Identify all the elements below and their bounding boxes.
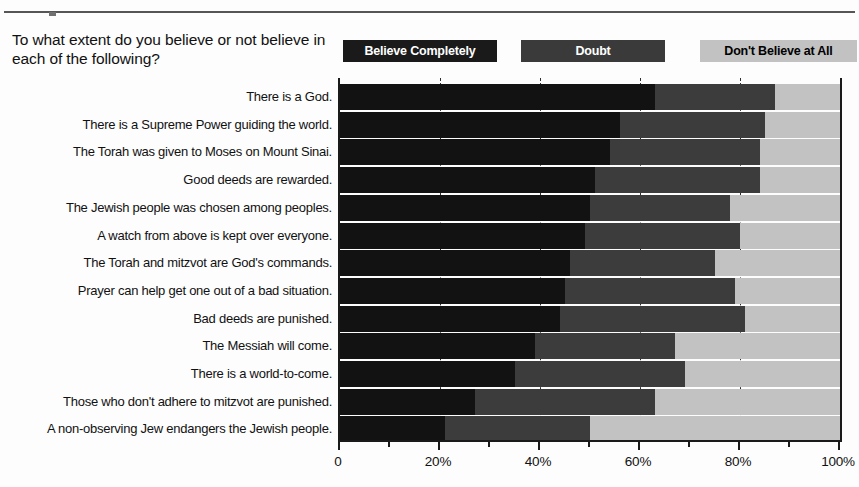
bar-segment-1 [535, 333, 675, 359]
bar-row [340, 112, 840, 138]
bar-row [340, 223, 840, 249]
x-tick-label: 100% [821, 454, 855, 469]
category-label: A non-observing Jew endangers the Jewish… [47, 416, 332, 442]
category-label: A watch from above is kept over everyone… [97, 223, 332, 249]
x-tick-minor-70 [688, 442, 690, 447]
bar-row [340, 306, 840, 332]
bar-segment-2 [675, 333, 840, 359]
x-tick-label: 60% [625, 454, 651, 469]
bar-segment-0 [340, 112, 620, 138]
bar-row [340, 278, 840, 304]
legend-item-1: Doubt [521, 40, 665, 62]
category-label: There is a world-to-come. [191, 361, 332, 387]
bar-segment-2 [685, 361, 840, 387]
bar-segment-2 [745, 306, 840, 332]
bar-segment-1 [445, 416, 590, 442]
bar-segment-0 [340, 389, 475, 415]
bar-segment-0 [340, 84, 655, 110]
category-label: Good deeds are rewarded. [183, 167, 332, 193]
bar-row [340, 389, 840, 415]
legend-item-2: Don't Believe at All [700, 40, 857, 62]
bar-segment-1 [585, 223, 740, 249]
bar-row [340, 361, 840, 387]
bar-segment-2 [730, 195, 840, 221]
x-tick-60 [638, 442, 640, 450]
x-tick-label: 0 [334, 454, 341, 469]
x-tick-label: 80% [725, 454, 751, 469]
chart-page: To what extent do you believe or not bel… [0, 0, 859, 487]
bar-segment-2 [775, 84, 840, 110]
category-label: The Torah was given to Moses on Mount Si… [73, 139, 332, 165]
legend-item-0: Believe Completely [343, 40, 497, 62]
bar-segment-1 [610, 139, 760, 165]
bar-segment-0 [340, 278, 565, 304]
category-label: The Messiah will come. [202, 333, 332, 359]
legend-item-label: Don't Believe at All [724, 44, 832, 58]
bar-segment-1 [590, 195, 730, 221]
bar-segment-1 [595, 167, 760, 193]
legend-item-label: Doubt [575, 44, 610, 58]
bar-segment-0 [340, 306, 560, 332]
bar-segment-1 [655, 84, 775, 110]
bar-row [340, 139, 840, 165]
bar-segment-2 [590, 416, 840, 442]
bar-segment-1 [515, 361, 685, 387]
plot-area [338, 78, 842, 440]
category-label: There is a Supreme Power guiding the wor… [83, 112, 332, 138]
bar-segment-1 [565, 278, 735, 304]
x-axis: 020%40%60%80%100% [338, 442, 842, 487]
bar-row [340, 195, 840, 221]
category-label: There is a God. [246, 84, 332, 110]
bar-row [340, 250, 840, 276]
x-tick-40 [538, 442, 540, 450]
x-tick-minor-50 [588, 442, 590, 447]
category-label: Prayer can help get one out of a bad sit… [78, 278, 332, 304]
x-tick-minor-30 [488, 442, 490, 447]
x-tick-label: 20% [425, 454, 451, 469]
top-divider [4, 11, 855, 13]
bar-segment-1 [570, 250, 715, 276]
bar-segment-0 [340, 416, 445, 442]
chart-area: There is a God.There is a Supreme Power … [0, 78, 859, 487]
x-tick-label: 40% [525, 454, 551, 469]
page-title: To what extent do you believe or not bel… [12, 30, 342, 68]
bar-segment-2 [760, 139, 840, 165]
category-label: Those who don't adhere to mitzvot are pu… [63, 389, 332, 415]
legend: Believe CompletelyDoubtDon't Believe at … [343, 40, 857, 62]
category-label: Bad deeds are punished. [193, 306, 332, 332]
bar-segment-2 [715, 250, 840, 276]
category-label-column: There is a God.There is a Supreme Power … [0, 78, 336, 440]
bar-segment-0 [340, 333, 535, 359]
bar-segment-2 [765, 112, 840, 138]
bar-segment-2 [655, 389, 840, 415]
bar-row [340, 84, 840, 110]
x-tick-80 [738, 442, 740, 450]
x-tick-minor-10 [388, 442, 390, 447]
category-label: The Jewish people was chosen among peopl… [66, 195, 332, 221]
page-artifact-mark [49, 12, 56, 16]
bar-segment-0 [340, 361, 515, 387]
x-tick-0 [338, 442, 340, 450]
bar-segment-0 [340, 250, 570, 276]
bar-segment-0 [340, 223, 585, 249]
x-tick-100 [838, 442, 840, 450]
bar-segment-0 [340, 139, 610, 165]
bar-row [340, 333, 840, 359]
category-label: The Torah and mitzvot are God's commands… [84, 250, 333, 276]
x-tick-20 [438, 442, 440, 450]
bar-segment-1 [475, 389, 655, 415]
bar-segment-0 [340, 195, 590, 221]
bar-segment-1 [620, 112, 765, 138]
bar-row [340, 416, 840, 442]
legend-item-label: Believe Completely [364, 44, 475, 58]
bar-segment-2 [735, 278, 840, 304]
bar-row [340, 167, 840, 193]
bar-segment-2 [740, 223, 840, 249]
bar-segment-0 [340, 167, 595, 193]
bar-segment-1 [560, 306, 745, 332]
bar-segment-2 [760, 167, 840, 193]
x-tick-minor-90 [788, 442, 790, 447]
